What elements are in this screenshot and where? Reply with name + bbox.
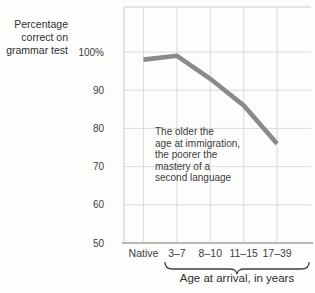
x-axis-title: Age at arrival, in years <box>157 272 315 284</box>
y-tick-label: 50 <box>58 238 104 249</box>
grammar-test-figure: Percentage correct on grammar test The o… <box>0 0 315 293</box>
y-tick-label: 100% <box>58 47 104 58</box>
chart-annotation: The older the age at immigration, the po… <box>155 126 263 184</box>
y-tick-label: 90 <box>58 85 104 96</box>
x-tick-label: 17–39 <box>255 247 299 259</box>
y-tick-label: 80 <box>58 123 104 134</box>
y-tick-label: 70 <box>58 161 104 172</box>
y-tick-label: 60 <box>58 199 104 210</box>
